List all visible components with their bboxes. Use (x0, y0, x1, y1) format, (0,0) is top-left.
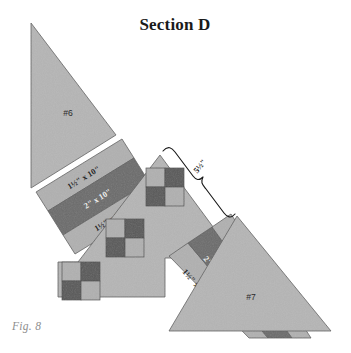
section-d-diagram: #6 1½" x 10" 2" x 10" 1½" x 10" (0, 0, 351, 353)
checker-square-light-br (81, 281, 100, 300)
checker-square-light-br (165, 187, 184, 206)
checker-block-bottom (62, 262, 100, 300)
triangle-7-label: #7 (246, 292, 256, 302)
brace-measurement-label: 5½" (192, 158, 209, 175)
checker-square-dark-bl (62, 281, 81, 300)
checker-square-light-tl (62, 262, 81, 281)
checker-square-light-tl (106, 219, 125, 238)
page-title: Section D (139, 15, 210, 34)
checker-square-dark-bl (146, 187, 165, 206)
checker-square-dark-tr (81, 262, 100, 281)
checker-square-dark-bl (106, 238, 125, 257)
checker-square-dark-tr (125, 219, 144, 238)
checker-square-dark-tr (165, 168, 184, 187)
triangle-6-label: #6 (63, 108, 73, 118)
checker-square-light-tl (146, 168, 165, 187)
figure-caption: Fig. 8 (11, 320, 41, 333)
figure-container: #6 1½" x 10" 2" x 10" 1½" x 10" (0, 0, 351, 353)
checker-square-light-br (125, 238, 144, 257)
checker-block-middle (106, 219, 144, 257)
checker-block-top (146, 168, 184, 206)
